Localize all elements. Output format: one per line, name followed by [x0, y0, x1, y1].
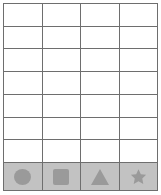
- grid-cell[interactable]: [81, 72, 120, 95]
- grid-cell[interactable]: [42, 26, 81, 49]
- grid-cell[interactable]: [4, 26, 43, 49]
- grid-cell[interactable]: [119, 140, 158, 163]
- grid-cell[interactable]: [81, 94, 120, 117]
- shape-grid-body: [4, 4, 158, 191]
- grid-cell[interactable]: [119, 26, 158, 49]
- star-icon: [129, 168, 148, 186]
- grid-cell[interactable]: [4, 49, 43, 72]
- grid-cell[interactable]: [4, 140, 43, 163]
- shape-cell-circle[interactable]: [4, 163, 43, 191]
- grid-cell[interactable]: [4, 4, 43, 27]
- shape-cell-inner: [120, 165, 158, 189]
- table-row: [4, 117, 158, 140]
- grid-cell[interactable]: [119, 94, 158, 117]
- table-row: [4, 26, 158, 49]
- grid-cell[interactable]: [42, 94, 81, 117]
- shape-cell-square[interactable]: [42, 163, 81, 191]
- grid-cell[interactable]: [119, 72, 158, 95]
- shape-cell-inner: [4, 165, 42, 189]
- shape-grid-table: [3, 3, 158, 191]
- grid-cell[interactable]: [4, 94, 43, 117]
- grid-cell[interactable]: [81, 117, 120, 140]
- grid-cell[interactable]: [42, 4, 81, 27]
- grid-cell[interactable]: [81, 26, 120, 49]
- table-row: [4, 4, 158, 27]
- grid-cell[interactable]: [42, 117, 81, 140]
- shape-cell-inner: [81, 165, 119, 189]
- grid-cell[interactable]: [119, 49, 158, 72]
- circle-icon: [14, 169, 31, 185]
- grid-cell[interactable]: [42, 140, 81, 163]
- triangle-icon: [91, 169, 109, 185]
- shape-cell-inner: [43, 165, 81, 189]
- table-row: [4, 49, 158, 72]
- shape-cell-star[interactable]: [119, 163, 158, 191]
- table-row: [4, 140, 158, 163]
- shape-legend-row: [4, 163, 158, 191]
- table-row: [4, 94, 158, 117]
- grid-cell[interactable]: [42, 49, 81, 72]
- grid-cell[interactable]: [119, 117, 158, 140]
- grid-cell[interactable]: [42, 72, 81, 95]
- grid-cell[interactable]: [119, 4, 158, 27]
- grid-cell[interactable]: [81, 4, 120, 27]
- shape-cell-triangle[interactable]: [81, 163, 120, 191]
- square-icon: [53, 169, 69, 185]
- grid-cell[interactable]: [81, 140, 120, 163]
- grid-cell[interactable]: [4, 72, 43, 95]
- shape-grid-container: [3, 3, 158, 191]
- grid-cell[interactable]: [81, 49, 120, 72]
- table-row: [4, 72, 158, 95]
- grid-cell[interactable]: [4, 117, 43, 140]
